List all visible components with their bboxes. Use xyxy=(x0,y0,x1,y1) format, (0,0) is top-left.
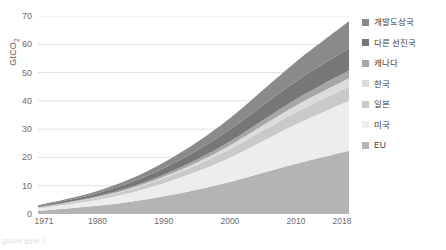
x-axis-tick-label: 2000 xyxy=(220,216,239,226)
legend-label: 미국 xyxy=(374,121,390,130)
plot-area xyxy=(38,16,349,214)
legend-item[interactable]: EU xyxy=(362,135,446,156)
legend-swatch-icon xyxy=(362,39,369,46)
legend: 개발도상국다른 선진국캐나다한국일본미국EU xyxy=(362,12,446,156)
y-axis-tick-label: 0 xyxy=(6,210,32,219)
legend-item[interactable]: 한국 xyxy=(362,74,446,95)
legend-swatch-icon xyxy=(362,101,369,108)
x-axis-tick-labels: 197119801990200020102018 xyxy=(38,216,349,232)
x-axis-tick-label: 1990 xyxy=(154,216,173,226)
legend-swatch-icon xyxy=(362,121,369,128)
legend-label: 캐나다 xyxy=(374,59,398,68)
stacked-area-chart: GtCO2 010203040506070 197119801990200020… xyxy=(0,0,446,250)
legend-label: EU xyxy=(374,141,386,150)
y-axis-tick-label: 50 xyxy=(6,68,32,77)
x-axis-tick-label: 2018 xyxy=(333,216,352,226)
y-axis-tick-label: 10 xyxy=(6,181,32,190)
legend-swatch-icon xyxy=(362,19,369,26)
legend-item[interactable]: 캐나다 xyxy=(362,53,446,74)
legend-swatch-icon xyxy=(362,142,369,149)
y-axis-tick-labels: 010203040506070 xyxy=(6,0,32,250)
legend-item[interactable]: 다른 선진국 xyxy=(362,33,446,54)
legend-item[interactable]: 일본 xyxy=(362,94,446,115)
area-series-group xyxy=(38,21,349,214)
y-axis-tick-label: 70 xyxy=(6,12,32,21)
x-axis-tick-label: 1980 xyxy=(88,216,107,226)
legend-item[interactable]: 개발도상국 xyxy=(362,12,446,33)
legend-label: 다른 선진국 xyxy=(374,39,416,48)
legend-label: 한국 xyxy=(374,80,390,89)
legend-swatch-icon xyxy=(362,60,369,67)
legend-item[interactable]: 미국 xyxy=(362,115,446,136)
legend-label: 일본 xyxy=(374,100,390,109)
y-axis-tick-label: 30 xyxy=(6,125,32,134)
plot-svg xyxy=(38,16,349,214)
footer-note: 출처자료의 설명 텍스트 xyxy=(2,238,46,244)
legend-label: 개발도상국 xyxy=(374,18,414,27)
x-axis-tick-label: 1971 xyxy=(35,216,54,226)
legend-swatch-icon xyxy=(362,80,369,87)
y-axis-tick-label: 20 xyxy=(6,153,32,162)
y-axis-tick-label: 60 xyxy=(6,40,32,49)
x-axis-tick-label: 2010 xyxy=(287,216,306,226)
y-axis-tick-label: 40 xyxy=(6,96,32,105)
